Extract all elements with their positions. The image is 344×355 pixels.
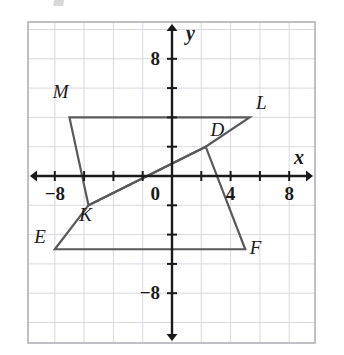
coordinate-graph: −80488−8 xy MLDKEF: [0, 0, 344, 355]
y-tick-label: −8: [140, 282, 160, 303]
x-axis-name: x: [293, 146, 304, 168]
x-tick-label: 0: [151, 183, 161, 204]
vertex-label-M: M: [52, 81, 70, 102]
x-tick-label: −8: [45, 183, 65, 204]
vertex-label-L: L: [255, 92, 267, 113]
x-tick-label: 4: [226, 183, 236, 204]
y-tick-label: 8: [151, 48, 161, 69]
vertex-label-F: F: [249, 237, 262, 258]
vertex-label-K: K: [78, 204, 93, 225]
vertex-label-E: E: [33, 226, 46, 247]
coordinate-plane-figure: −80488−8 xy MLDKEF: [0, 0, 344, 355]
y-axis-name: y: [184, 22, 195, 45]
vertex-label-D: D: [210, 119, 225, 140]
x-tick-label: 8: [284, 183, 294, 204]
